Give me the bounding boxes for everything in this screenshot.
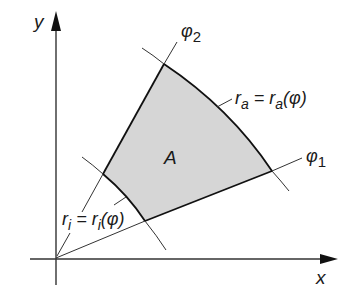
ray-phi2-ext [164, 42, 177, 64]
inner-curve-ext-top [82, 157, 103, 174]
inner-curve-label: ri = ri(φ) [62, 209, 125, 233]
region-a [103, 64, 272, 221]
outer-curve-ext-top [142, 48, 164, 64]
ray-phi1-ext [272, 158, 302, 171]
phi2-label: φ2 [181, 21, 201, 45]
outer-curve-ext-bottom [272, 171, 289, 191]
ray-phi2-thin [82, 174, 103, 212]
leader-ri-curve [114, 197, 126, 205]
y-axis-arrow-icon [51, 11, 61, 31]
leader-ra [217, 99, 232, 107]
outer-curve-label: ra = ra(φ) [235, 88, 307, 112]
phi1-label: φ1 [306, 146, 326, 170]
region-label: A [163, 147, 177, 168]
x-axis-label: x [315, 267, 327, 288]
inner-curve-ext-bottom [145, 221, 166, 250]
x-axis-arrow-icon [320, 254, 338, 264]
polar-area-diagram: y x A φ2 φ1 ra = ra(φ) ri = ri(φ) [0, 0, 349, 302]
y-axis-label: y [32, 11, 45, 32]
